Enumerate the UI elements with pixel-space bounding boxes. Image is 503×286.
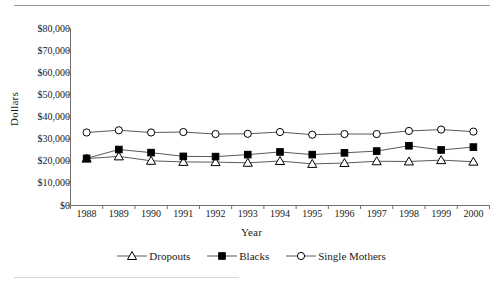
data-point-marker <box>341 150 348 157</box>
legend-item-label: Dropouts <box>148 250 190 262</box>
data-point-marker <box>275 157 284 165</box>
data-point-marker <box>219 253 226 260</box>
data-point-marker <box>470 144 477 151</box>
chart-figure: Dollars Year $0$10,000$20,000$30,000$40,… <box>0 0 503 286</box>
data-point-marker <box>147 129 154 136</box>
data-point-marker <box>298 252 305 259</box>
plot-area <box>0 0 503 286</box>
data-point-marker <box>244 130 251 137</box>
data-point-marker <box>309 151 316 158</box>
data-point-marker <box>373 130 380 137</box>
legend-item-single-mothers[interactable]: Single Mothers <box>286 250 386 262</box>
data-point-marker <box>83 129 90 136</box>
data-point-marker <box>115 127 122 134</box>
data-point-marker <box>372 157 381 165</box>
data-point-marker <box>437 156 446 164</box>
data-point-marker <box>309 131 316 138</box>
data-point-marker <box>406 142 413 149</box>
data-point-marker <box>212 153 219 160</box>
data-point-marker <box>116 146 123 153</box>
series-single-mothers <box>83 126 477 138</box>
bottom-horizontal-rule <box>14 277 239 278</box>
data-point-marker <box>438 147 445 154</box>
legend-item-label: Single Mothers <box>317 250 386 262</box>
data-point-marker <box>83 155 90 162</box>
data-point-marker <box>212 130 219 137</box>
legend-item-blacks[interactable]: Blacks <box>207 250 269 262</box>
data-point-marker <box>470 128 477 135</box>
data-point-marker <box>244 151 251 158</box>
legend-item-label: Blacks <box>238 250 269 262</box>
legend-marker-open-triangle-icon <box>117 250 147 262</box>
data-point-marker <box>341 130 348 137</box>
data-point-marker <box>180 128 187 135</box>
chart-legend: DropoutsBlacksSingle Mothers <box>0 250 503 262</box>
legend-item-dropouts[interactable]: Dropouts <box>117 250 190 262</box>
data-point-marker <box>277 149 284 156</box>
data-point-marker <box>373 148 380 155</box>
data-point-marker <box>276 128 283 135</box>
data-point-marker <box>148 149 155 156</box>
legend-marker-open-circle-icon <box>286 250 316 262</box>
legend-marker-filled-square-icon <box>207 250 237 262</box>
data-point-marker <box>180 153 187 160</box>
data-point-marker <box>438 126 445 133</box>
data-point-marker <box>405 127 412 134</box>
